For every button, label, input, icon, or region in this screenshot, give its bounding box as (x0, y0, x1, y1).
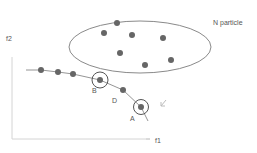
cluster-label: N particle (213, 19, 243, 26)
curve-points (38, 67, 144, 110)
point-d-label: D (112, 97, 117, 104)
arrow-icon (161, 100, 166, 106)
x-axis-label: f1 (155, 137, 161, 144)
trajectory-curve (26, 70, 148, 121)
cluster-points (101, 20, 174, 68)
y-axis-label: f2 (6, 35, 12, 42)
particle-cluster-ellipse (69, 21, 211, 73)
point-a-label: A (130, 115, 135, 122)
point-b-label: B (92, 87, 97, 94)
